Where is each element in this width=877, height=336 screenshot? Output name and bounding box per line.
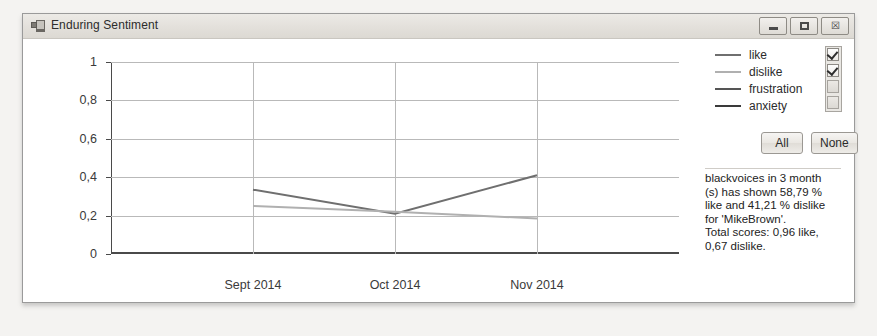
y-axis-tick-label: 0,4 xyxy=(80,170,97,184)
legend-checkbox-anxiety[interactable] xyxy=(826,95,841,111)
info-line-6: 0,67 dislike. xyxy=(705,240,841,254)
y-axis-tick-mark xyxy=(106,254,111,255)
legend-item-label: frustration xyxy=(749,82,802,96)
y-axis-tick-label: 0,8 xyxy=(80,93,97,107)
y-axis-tick-label: 0 xyxy=(90,247,97,261)
series-layer xyxy=(111,62,679,254)
y-axis-tick-label: 0,6 xyxy=(80,132,97,146)
info-line-2: (s) has shown 58,79 % xyxy=(705,186,841,200)
legend-color-swatch xyxy=(715,88,741,90)
window-title: Enduring Sentiment xyxy=(51,18,158,32)
right-panel: likedislikefrustrationanxiety All None b… xyxy=(703,44,849,296)
legend-checkbox-like[interactable] xyxy=(826,47,841,63)
legend-item-label: dislike xyxy=(749,65,782,79)
select-none-button[interactable]: None xyxy=(811,132,858,154)
series-line-dislike xyxy=(253,206,537,218)
legend-checkbox-column[interactable] xyxy=(825,46,842,112)
x-axis-tick-label: Oct 2014 xyxy=(370,278,421,292)
y-axis-tick-label: 1 xyxy=(90,55,97,69)
summary-info-box: blackvoices in 3 month (s) has shown 58,… xyxy=(705,168,841,253)
maximize-button[interactable] xyxy=(790,17,818,35)
client-area: 10,80,60,40,20Sept 2014Oct 2014Nov 2014 … xyxy=(23,39,854,302)
legend-checkbox-frustration[interactable] xyxy=(826,79,841,95)
title-bar[interactable]: Enduring Sentiment ☒ xyxy=(23,14,854,39)
minimize-button[interactable] xyxy=(759,17,787,35)
legend-color-swatch xyxy=(715,54,741,56)
select-all-button[interactable]: All xyxy=(761,132,803,154)
legend-checkbox-dislike[interactable] xyxy=(826,63,841,79)
form-designer-icon xyxy=(31,20,45,33)
legend-button-row: All None xyxy=(761,132,858,154)
close-button[interactable]: ☒ xyxy=(821,17,849,35)
sentiment-chart: 10,80,60,40,20Sept 2014Oct 2014Nov 2014 xyxy=(33,44,698,296)
window-controls: ☒ xyxy=(759,17,849,35)
plot-area: 10,80,60,40,20Sept 2014Oct 2014Nov 2014 xyxy=(111,62,679,254)
info-line-5: Total scores: 0,96 like, xyxy=(705,226,841,240)
legend-color-swatch xyxy=(715,71,741,73)
close-icon: ☒ xyxy=(822,18,848,34)
x-axis-tick-label: Sept 2014 xyxy=(225,278,282,292)
legend-item-label: like xyxy=(749,48,767,62)
info-line-4: for 'MikeBrown'. xyxy=(705,213,841,227)
legend-item-label: anxiety xyxy=(749,99,787,113)
legend-color-swatch xyxy=(715,105,741,107)
x-axis-tick-label: Nov 2014 xyxy=(510,278,564,292)
info-line-3: like and 41,21 % dislike xyxy=(705,199,841,213)
application-window: Enduring Sentiment ☒ 10,80,60,40,20Sept … xyxy=(22,13,855,303)
info-line-1: blackvoices in 3 month xyxy=(705,172,841,186)
y-axis-tick-label: 0,2 xyxy=(80,209,97,223)
